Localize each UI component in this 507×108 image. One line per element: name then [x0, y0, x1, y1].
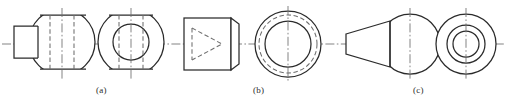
- drawing-sheet: .obj { fill:none; stroke:#2b2b2b; stroke…: [0, 0, 507, 108]
- frustum-outline-c: [346, 21, 390, 67]
- chamfer-strip-b: [231, 18, 239, 70]
- boss-rectangle-a: [14, 26, 38, 58]
- caption-b: (b): [253, 85, 264, 95]
- caption-c: (c): [413, 85, 424, 95]
- caption-a: (a): [96, 85, 107, 95]
- subfigure-a-front-view: [14, 8, 95, 80]
- subfigure-a-side-view: [98, 8, 164, 80]
- subfigure-b-front-view: [184, 18, 239, 70]
- subfigure-c-side-view: [436, 8, 496, 80]
- body-rectangle-b: [184, 18, 231, 70]
- subfigure-c-front-view: [346, 8, 440, 80]
- subfigure-b-side-view: [255, 6, 321, 82]
- subfigure-c: [346, 8, 496, 80]
- subfigure-a: [14, 8, 164, 80]
